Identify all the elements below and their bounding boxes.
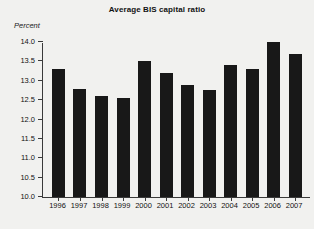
y-axis-tick: 14.0 [38, 41, 43, 42]
bar [73, 89, 86, 198]
bar [267, 42, 280, 197]
y-axis-tick-label: 14.0 [20, 37, 35, 47]
y-axis-tick: 11.0 [38, 157, 43, 158]
y-axis-tick-label: 12.0 [20, 115, 35, 125]
bar [160, 73, 173, 197]
bar [181, 85, 194, 197]
y-axis-tick-label: 11.0 [21, 153, 35, 163]
y-axis-tick: 12.0 [38, 119, 43, 120]
y-axis-tick: 13.5 [38, 60, 43, 61]
bar [203, 90, 216, 197]
y-axis-tick-label: 12.5 [20, 95, 35, 105]
y-axis-tick-label: 11.5 [21, 134, 35, 144]
x-axis-tick-label: 2003 [196, 201, 220, 211]
y-axis-tick: 12.5 [38, 99, 43, 100]
x-axis-tick-label: 1996 [45, 201, 69, 211]
x-axis-tick-label: 2007 [282, 201, 306, 211]
bar [246, 69, 259, 197]
x-axis-tick-label: 1999 [110, 201, 134, 211]
y-axis-tick: 11.5 [38, 138, 43, 139]
x-axis-tick-label: 2006 [261, 201, 285, 211]
chart-screenshot: Average BIS capital ratio Percent 10.010… [0, 0, 314, 229]
bar [138, 61, 151, 197]
x-axis-tick-label: 2000 [132, 201, 156, 211]
x-axis-tick-label: 1997 [67, 201, 91, 211]
y-axis-tick-label: 10.5 [20, 173, 35, 183]
bar [289, 54, 302, 197]
y-axis-tick-label: 13.0 [20, 76, 35, 86]
y-axis-tick: 13.0 [38, 80, 43, 81]
x-axis-tick-label: 2002 [175, 201, 199, 211]
bar [95, 96, 108, 197]
bar [52, 69, 65, 197]
x-axis-tick-label: 1998 [89, 201, 113, 211]
bar [224, 65, 237, 197]
y-axis-tick-label: 10.0 [20, 192, 35, 202]
x-axis-tick-label: 2001 [153, 201, 177, 211]
y-axis-tick: 10.5 [38, 177, 43, 178]
x-axis-tick-label: 2004 [218, 201, 242, 211]
y-axis-unit-label: Percent [14, 21, 40, 30]
x-axis-tick-label: 2005 [239, 201, 263, 211]
plot-area: 10.010.511.011.512.012.513.013.514.0 [42, 43, 310, 198]
y-axis-tick: 10.0 [38, 196, 43, 197]
y-axis-tick-label: 13.5 [20, 56, 35, 66]
chart-title: Average BIS capital ratio [0, 5, 314, 14]
bar [117, 98, 130, 197]
